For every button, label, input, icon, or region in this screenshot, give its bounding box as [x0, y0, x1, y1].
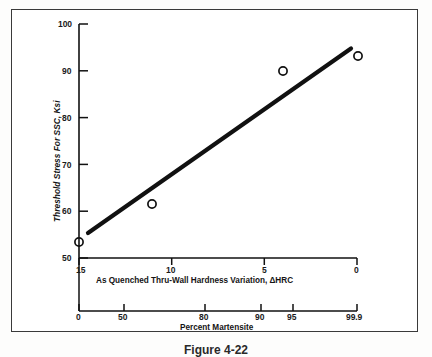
data-point [354, 52, 362, 60]
y-tick-label-80: 80 [62, 113, 71, 123]
lower-x-axis-ticks [79, 304, 357, 311]
y-tick-label-70: 70 [62, 160, 71, 170]
upper-x-axis-ticks [79, 258, 357, 265]
lower-x-tick-label-95: 95 [287, 312, 296, 322]
lower-x-tick-label-99-9: 99.9 [346, 312, 362, 322]
data-point [279, 67, 287, 75]
upper-x-axis-title: As Quenched Thru-Wall Hardness Variation… [96, 276, 293, 285]
upper-x-tick-label-5: 5 [262, 265, 267, 275]
chart-svg [0, 0, 432, 357]
data-point [148, 200, 156, 208]
y-tick-label-60: 60 [62, 206, 71, 216]
y-axis-ticks [79, 24, 88, 258]
chart-plot-area: 100 90 80 70 60 50 Threshold Stress For … [0, 0, 432, 357]
upper-x-tick-label-0: 0 [354, 265, 359, 275]
y-tick-label-100: 100 [58, 19, 72, 29]
lower-x-axis-title: Percent Martensite [180, 323, 253, 332]
y-tick-label-90: 90 [62, 66, 71, 76]
y-tick-label-50: 50 [62, 253, 71, 263]
figure-page: 100 90 80 70 60 50 Threshold Stress For … [0, 0, 432, 357]
lower-x-tick-label-90: 90 [255, 312, 264, 322]
lower-x-tick-label-0: 0 [76, 312, 81, 322]
upper-x-tick-label-10: 10 [166, 265, 175, 275]
upper-x-tick-label-15: 15 [76, 265, 85, 275]
data-points [75, 52, 362, 246]
figure-caption: Figure 4-22 [0, 343, 432, 357]
lower-x-tick-label-50: 50 [118, 312, 127, 322]
lower-x-tick-label-80: 80 [199, 312, 208, 322]
y-axis-title: Threshold Stress For SSC, Ksi [52, 101, 62, 222]
trend-line [88, 49, 351, 234]
